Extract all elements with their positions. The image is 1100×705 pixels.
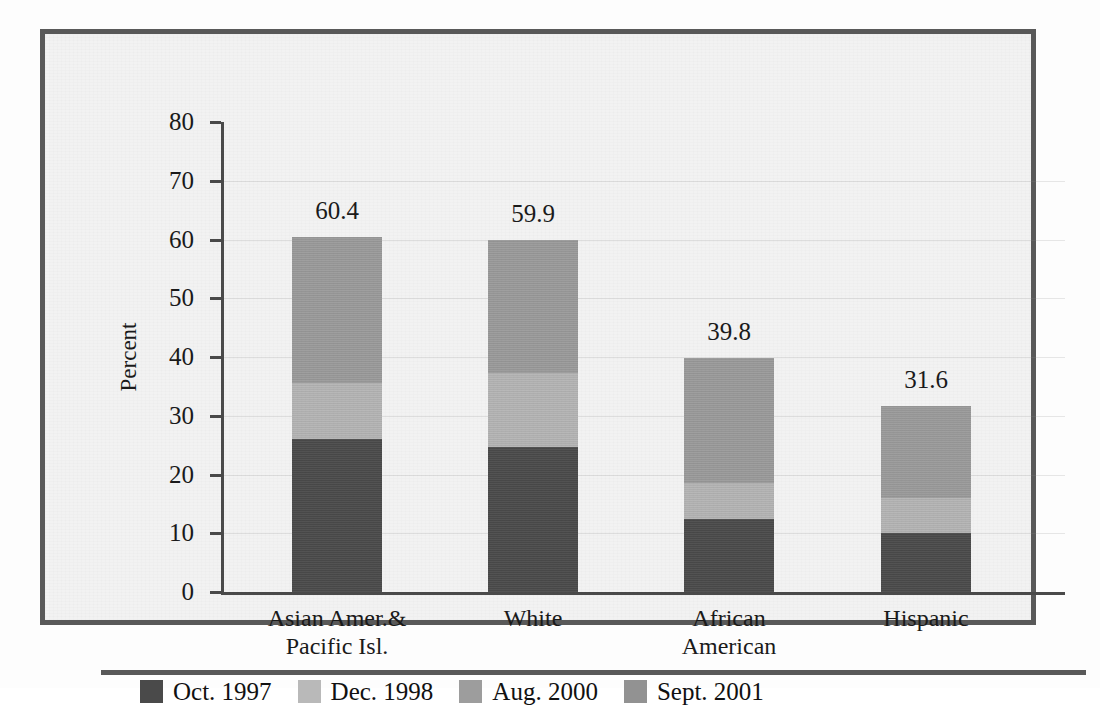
y-axis-tick: 30: [210, 415, 221, 418]
y-axis-tick-label: 50: [169, 285, 194, 310]
legend-divider: [101, 670, 1086, 675]
stacked-bar[interactable]: [684, 358, 774, 592]
y-axis-tick-label: 30: [169, 402, 194, 427]
y-axis-tick-label: 80: [169, 109, 194, 134]
legend-label: Oct. 1997: [173, 679, 272, 704]
category-label-line: American: [599, 632, 859, 660]
y-axis-tick-label: 70: [169, 167, 194, 192]
y-axis-tick: 40: [210, 356, 221, 359]
y-axis-tick: 60: [210, 239, 221, 242]
category-label-line: Hispanic: [796, 604, 1056, 632]
bar-segment[interactable]: [881, 498, 971, 533]
y-axis-tick-label: 40: [169, 344, 194, 369]
legend-swatch: [298, 680, 321, 703]
x-axis-line: [221, 592, 1065, 595]
bar-segment[interactable]: [488, 447, 578, 592]
bar-segment[interactable]: [488, 373, 578, 447]
legend-label: Aug. 2000: [492, 679, 598, 704]
legend-swatch: [140, 680, 163, 703]
y-axis-tick: 80: [210, 121, 221, 124]
legend-item[interactable]: Oct. 1997: [140, 679, 272, 704]
bar-total-label: 39.8: [649, 318, 809, 346]
bar-segment[interactable]: [684, 483, 774, 519]
legend-swatch: [624, 680, 647, 703]
gridline: [224, 181, 1065, 182]
category-label: Hispanic: [796, 604, 1056, 632]
bar-segment[interactable]: [292, 237, 382, 383]
plot-area: Percent 01020304050607080 60.459.939.831…: [221, 122, 1065, 592]
bar-segment[interactable]: [881, 533, 971, 592]
bar-segment[interactable]: [488, 240, 578, 373]
y-axis-tick: 10: [210, 532, 221, 535]
legend-label: Dec. 1998: [331, 679, 434, 704]
category-label-line: Pacific Isl.: [207, 632, 467, 660]
chart-legend: Oct. 1997Dec. 1998Aug. 2000Sept. 2001: [140, 679, 764, 704]
y-axis-tick-label: 10: [169, 520, 194, 545]
bar-total-label: 59.9: [453, 200, 613, 228]
y-axis-tick-label: 20: [169, 461, 194, 486]
stacked-bar[interactable]: [292, 237, 382, 592]
bar-segment[interactable]: [292, 383, 382, 439]
stacked-bar[interactable]: [488, 240, 578, 592]
legend-item[interactable]: Dec. 1998: [298, 679, 434, 704]
legend-item[interactable]: Aug. 2000: [459, 679, 598, 704]
y-axis-tick-label: 60: [169, 226, 194, 251]
y-axis-tick: 50: [210, 297, 221, 300]
legend-item[interactable]: Sept. 2001: [624, 679, 764, 704]
bar-segment[interactable]: [292, 439, 382, 592]
stacked-bar[interactable]: [881, 406, 971, 592]
y-axis-tick: 20: [210, 474, 221, 477]
bar-total-label: 60.4: [257, 197, 417, 225]
y-axis-tick: 0: [210, 591, 221, 594]
y-axis-tick: 70: [210, 180, 221, 183]
bar-segment[interactable]: [881, 406, 971, 498]
bar-total-label: 31.6: [846, 366, 1006, 394]
legend-swatch: [459, 680, 482, 703]
legend-label: Sept. 2001: [657, 679, 764, 704]
bar-segment[interactable]: [684, 358, 774, 483]
y-axis-tick-label: 0: [182, 579, 195, 604]
y-axis-title: Percent: [116, 323, 142, 392]
chart-panel: Percent 01020304050607080 60.459.939.831…: [40, 29, 1036, 625]
bar-segment[interactable]: [684, 519, 774, 592]
